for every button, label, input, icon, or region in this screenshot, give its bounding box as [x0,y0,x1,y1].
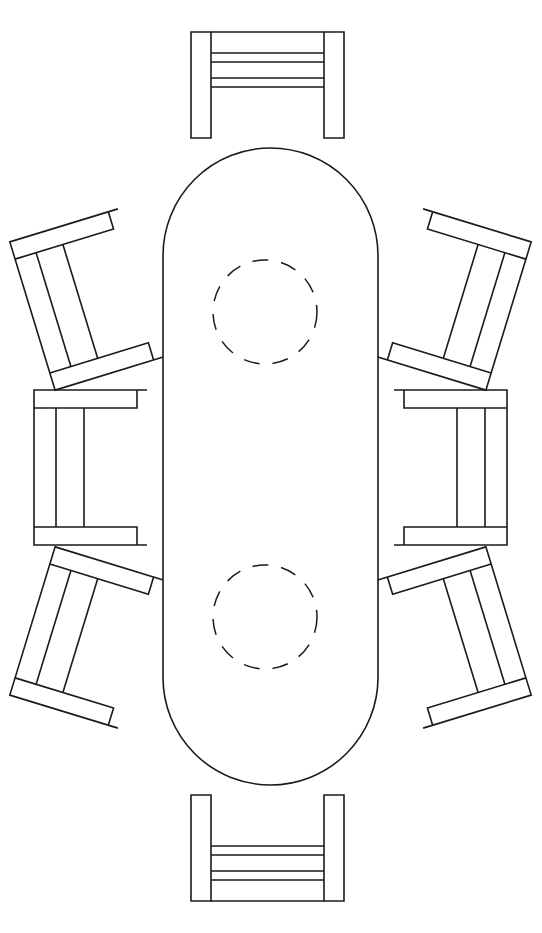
floor-plan-canvas [0,0,542,933]
chair-lower-right[interactable] [378,547,531,728]
chair-upper-left-body [10,209,163,390]
chair-top[interactable] [191,32,344,138]
chair-upper-left[interactable] [10,209,163,390]
chair-right-middle-body [394,390,507,545]
chair-upper-right-body [378,209,531,390]
chair-bottom-body [191,795,344,901]
chair-lower-right-body [378,547,531,728]
chair-right-middle[interactable] [394,390,507,545]
oval-dining-table [163,148,378,785]
chair-lower-left[interactable] [10,547,163,728]
chair-top-body [191,32,344,138]
table-group [163,148,378,785]
chair-lower-left-body [10,547,163,728]
chair-left-middle[interactable] [34,390,147,545]
chair-upper-right[interactable] [378,209,531,390]
chair-left-middle-body [34,390,147,545]
plan-drawing [0,0,542,933]
chair-bottom[interactable] [191,795,344,901]
